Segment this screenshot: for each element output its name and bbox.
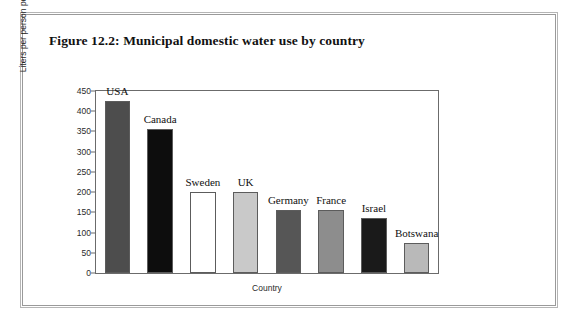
y-axis-tick-mark — [91, 273, 95, 274]
y-axis-tick-mark — [91, 111, 95, 112]
y-axis-tick-mark — [91, 192, 95, 193]
bar-label-canada: Canada — [144, 113, 177, 125]
y-axis-tick-label: 300 — [51, 147, 91, 157]
y-axis-tick-mark — [91, 171, 95, 172]
bar-label-botswana: Botswana — [395, 227, 438, 239]
bar-label-germany: Germany — [268, 194, 309, 206]
bar-label-usa: USA — [106, 85, 128, 97]
y-axis-tick-mark — [91, 91, 95, 92]
bar-label-israel: Israel — [362, 202, 386, 214]
y-axis-tick-mark — [91, 252, 95, 253]
y-axis-tick-mark — [91, 151, 95, 152]
y-axis-tick-label: 150 — [51, 207, 91, 217]
bar-label-sweden: Sweden — [185, 176, 220, 188]
y-axis-tick-label: 100 — [51, 228, 91, 238]
y-axis-tick-mark — [91, 232, 95, 233]
x-axis-title: Country — [95, 283, 439, 293]
y-axis-tick-label: 0 — [51, 268, 91, 278]
y-axis-tick-mark — [91, 212, 95, 213]
y-axis-tick-label: 400 — [51, 106, 91, 116]
bar-labels-layer: USACanadaSwedenUKGermanyFranceIsraelBots… — [96, 15, 438, 307]
y-axis-tick-label: 250 — [51, 167, 91, 177]
y-axis-tick-label: 350 — [51, 126, 91, 136]
y-axis-tick-label: 450 — [51, 86, 91, 96]
y-axis-tick-mark — [91, 131, 95, 132]
figure-border: Figure 12.2: Municipal domestic water us… — [22, 14, 556, 306]
y-axis-tick-label: 200 — [51, 187, 91, 197]
bar-chart: Liters per person per day 05010015020025… — [23, 15, 557, 307]
bar-label-france: France — [316, 194, 346, 206]
y-axis-tick-label: 50 — [51, 248, 91, 258]
bar-label-uk: UK — [238, 176, 254, 188]
y-axis-tick-labels: 050100150200250300350400450 — [47, 90, 91, 274]
y-axis-title: Liters per person per day — [18, 0, 28, 115]
